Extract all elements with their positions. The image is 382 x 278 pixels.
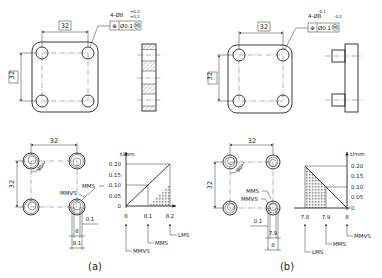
ytick: 0.05: [351, 194, 364, 200]
dim-horizontal: 32: [50, 137, 58, 145]
label-lms: LMS: [178, 232, 190, 238]
xtick: 8.2: [166, 213, 175, 219]
angle-label: 90°: [234, 162, 245, 173]
xtick: 8: [124, 213, 128, 219]
label-mmvs: MMVS: [354, 233, 371, 239]
mmr-modifier: M: [135, 23, 139, 28]
caption-a: (a): [88, 261, 102, 272]
ytick: 0.15: [351, 173, 364, 179]
dim-0-1: 0.1: [86, 216, 95, 222]
y-label: t/mm: [350, 151, 365, 157]
figure-b-chart: 0.20 0.15 0.10 0.05 0 t/mm 7.8 7.9 8 LMS…: [294, 151, 371, 255]
dim-vertical: 32: [8, 71, 16, 79]
pin-tol-upper: -0.1: [318, 9, 326, 14]
shaded-region: [305, 166, 326, 208]
dim-horizontal: 32: [260, 23, 268, 31]
label-mms: MMS: [333, 241, 346, 247]
xtick: 7.9: [322, 214, 331, 220]
dim-vertical: 32: [206, 181, 214, 189]
figure-a-chart: 0.20 0.15 0.10 0.05 0 t/mm 8 8.1 8.2 MMV…: [109, 151, 190, 254]
ytick: 0.20: [109, 161, 122, 167]
figure-a-section-view: [137, 44, 162, 111]
label-mmvs: MMVS: [60, 190, 77, 196]
position-icon: ⊕: [310, 25, 315, 31]
dim-0-1: 0.1: [254, 218, 263, 224]
figure-b-dynamic-diagram: 32 32 90° MMS MMVS 0.1 7.9 8: [206, 137, 281, 250]
frame-value: Ø0.1: [120, 23, 133, 29]
figure-b-side-view: [325, 44, 362, 112]
dim-8-1: 8.1: [73, 240, 82, 246]
hole-circles: [23, 153, 85, 215]
figure-a-plan-view: 32 32 4-Ø8 +0.2 +0.1 ⊕ Ø0.1 M: [8, 9, 141, 112]
dim-8: 8: [271, 242, 275, 248]
dim-7-9: 7.9: [269, 230, 278, 236]
frame-value: Ø0.1: [318, 25, 331, 31]
dim-vertical: 32: [206, 72, 214, 80]
y-label: t/mm: [120, 151, 135, 157]
drawing-canvas: 32 32 4-Ø8 +0.2 +0.1 ⊕ Ø0.1 M: [0, 0, 382, 278]
ytick: 0: [118, 203, 122, 209]
shaded-region: [148, 184, 170, 206]
label-mms: MMS: [155, 240, 168, 246]
label-mms: MMS: [82, 183, 95, 189]
figure-a-dynamic-diagram: 32 32 90° MMS MMVS 0.1 8 8.1: [8, 137, 104, 250]
xtick: 8: [345, 214, 349, 220]
ytick: 0.05: [109, 193, 122, 199]
xtick: 8.1: [144, 213, 153, 219]
dim-horizontal: 32: [248, 137, 256, 145]
pin-circles: [223, 155, 280, 215]
xtick: 7.8: [301, 214, 310, 220]
label-lms: LMS: [312, 249, 324, 255]
ytick: 0.10: [109, 182, 122, 188]
ytick: 0.20: [351, 163, 364, 169]
dim-horizontal: 32: [61, 22, 69, 30]
caption-b: (b): [280, 261, 294, 272]
figure-b-plan-view: 32 32 4-Ø8 -0.1 -0.2 ⊕ Ø0.1 M: [206, 9, 342, 113]
label-mmvs: MMVS: [133, 248, 150, 254]
hole-tol-lower: +0.1: [130, 14, 140, 19]
position-icon: ⊕: [112, 23, 117, 29]
dim-8: 8: [75, 228, 79, 234]
label-mms: MMS: [246, 188, 259, 194]
mmr-modifier: M: [333, 25, 337, 30]
tolerance-frame: ⊕ Ø0.1 M: [110, 21, 141, 30]
ytick: 0.15: [109, 172, 122, 178]
label-mmvs: MMVS: [241, 196, 258, 202]
pin-tol-lower: -0.2: [334, 14, 342, 19]
ytick: 0.10: [351, 184, 364, 190]
ytick: 0: [351, 205, 355, 211]
tolerance-frame: ⊕ Ø0.1 M: [308, 23, 339, 32]
dim-vertical: 32: [8, 180, 16, 188]
hole-callout: 4-Ø8: [110, 12, 124, 18]
